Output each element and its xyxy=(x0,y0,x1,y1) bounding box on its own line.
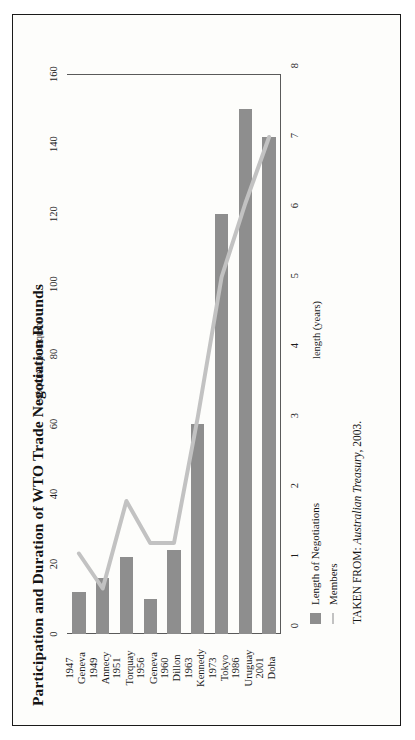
category-place: Torquay xyxy=(123,651,135,686)
category-label-annecy-1949: 1949Annecy xyxy=(87,652,112,685)
source-suffix: , 2003. xyxy=(351,421,363,453)
category-place: Geneva xyxy=(76,652,88,684)
rotated-figure-stage: Participation and Duration of WTO Trade … xyxy=(21,20,393,720)
members-axis-title: number of members xyxy=(35,317,46,402)
bar-geneva-1947 xyxy=(72,592,85,634)
plot-area: 012345678 020406080100120140160 1947Gene… xyxy=(67,74,281,634)
category-place: Dillon xyxy=(171,655,183,682)
category-year: 2001 xyxy=(254,657,266,680)
members-tick-140: 140 xyxy=(47,131,58,157)
members-tick-160: 160 xyxy=(47,61,58,87)
category-place: Annecy xyxy=(100,652,112,685)
category-place: Uruguay xyxy=(242,650,254,687)
source-note: TAKEN FROM: Australian Treasury, 2003. xyxy=(351,421,363,624)
chart-legend: Length of NegotiationsMembers xyxy=(307,503,343,624)
members-tick-20: 20 xyxy=(47,551,58,577)
category-year: 1947 xyxy=(63,652,75,684)
category-place: Geneva xyxy=(147,652,159,684)
members-tick-0: 0 xyxy=(47,621,58,647)
category-year: 1949 xyxy=(87,652,99,685)
bar-torquay-1951 xyxy=(119,557,132,634)
source-prefix: TAKEN FROM: xyxy=(351,544,363,624)
legend-bar-swatch-icon xyxy=(309,613,320,624)
legend-item-label: Length of Negotiations xyxy=(309,503,321,605)
category-place: Doha xyxy=(266,657,278,680)
length-axis-title: length (years) xyxy=(311,301,322,359)
category-axis-line xyxy=(280,74,281,634)
members-axis-line xyxy=(67,74,281,75)
members-tick-120: 120 xyxy=(47,201,58,227)
members-tick-100: 100 xyxy=(47,271,58,297)
legend-item-label: Members xyxy=(327,563,339,605)
category-year: 1986 xyxy=(230,650,242,687)
category-place: Kennedy xyxy=(195,649,207,687)
category-year: 1951 xyxy=(111,651,123,686)
bar-dillon-1960 xyxy=(167,550,180,634)
members-tick-40: 40 xyxy=(47,481,58,507)
category-year: 1973 xyxy=(206,655,218,682)
legend-item-2: Members xyxy=(325,503,341,624)
members-tick-60: 60 xyxy=(47,411,58,437)
length-tick-6: 6 xyxy=(288,203,299,225)
length-tick-1: 1 xyxy=(288,553,299,575)
figure-page-frame: Participation and Duration of WTO Trade … xyxy=(12,14,401,726)
category-label-kennedy-1963: 1963Kennedy xyxy=(182,649,207,687)
length-tick-4: 4 xyxy=(288,343,299,365)
category-label-uruguay-1986: 1986Uruguay xyxy=(230,650,255,687)
category-label-doha-2001: 2001Doha xyxy=(254,657,279,680)
bar-uruguay-1986 xyxy=(238,109,251,634)
plot-inner xyxy=(67,74,281,634)
category-label-torquay-1951: 1951Torquay xyxy=(111,651,136,686)
length-tick-2: 2 xyxy=(288,483,299,505)
category-year: 1960 xyxy=(159,655,171,682)
members-tick-80: 80 xyxy=(47,341,58,367)
bar-annecy-1949 xyxy=(96,578,109,634)
chart-figure: Participation and Duration of WTO Trade … xyxy=(21,20,393,720)
length-tick-3: 3 xyxy=(288,413,299,435)
category-label-dillon-1960: 1960Dillon xyxy=(159,655,184,682)
bar-doha-2001 xyxy=(262,137,275,634)
length-tick-5: 5 xyxy=(288,273,299,295)
category-label-geneva-1947: 1947Geneva xyxy=(63,652,88,684)
category-year: 1956 xyxy=(135,652,147,684)
category-label-geneva-1956: 1956Geneva xyxy=(135,652,160,684)
category-place: Tokyo xyxy=(218,655,230,682)
bar-tokyo-1973 xyxy=(214,214,227,634)
source-italic-title: Australian Treasury xyxy=(351,453,363,545)
bar-kennedy-1963 xyxy=(191,424,204,634)
bar-geneva-1956 xyxy=(143,599,156,634)
length-tick-7: 7 xyxy=(288,133,299,155)
length-tick-8: 8 xyxy=(288,63,299,85)
legend-line-swatch-icon xyxy=(332,613,334,624)
category-label-tokyo-1973: 1973Tokyo xyxy=(206,655,231,682)
legend-item-1: Length of Negotiations xyxy=(307,503,323,624)
category-year: 1963 xyxy=(182,649,194,687)
length-tick-0: 0 xyxy=(288,623,299,645)
